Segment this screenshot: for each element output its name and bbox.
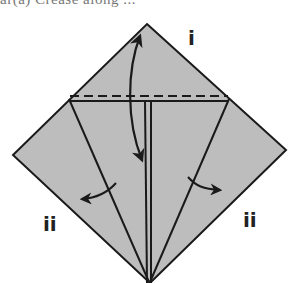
origami-diagram <box>0 0 298 283</box>
label-top-i: i <box>188 28 195 48</box>
paper-square <box>13 24 286 283</box>
label-right-ii: ii <box>243 210 257 230</box>
label-left-ii: ii <box>43 214 57 234</box>
